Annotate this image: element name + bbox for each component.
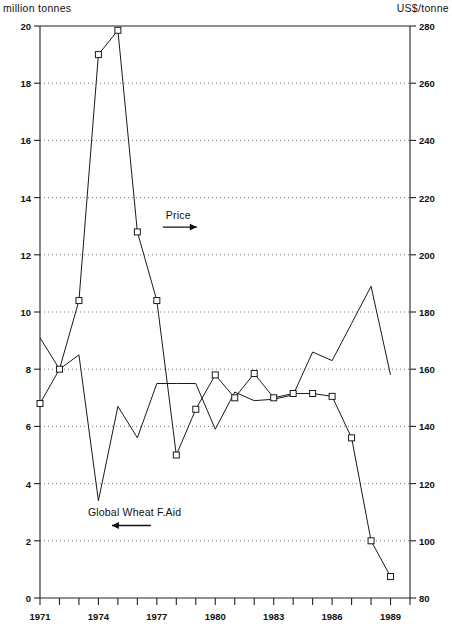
y-axis-tick-label: 20: [20, 21, 31, 32]
y-axis-tick-label: 2: [26, 535, 31, 546]
x-axis-tick-label: 1983: [263, 611, 284, 622]
price-annotation-arrow: [163, 224, 197, 231]
x-axis-tick-label: 1986: [322, 611, 343, 622]
food-aid-annotation-arrow: [112, 522, 151, 529]
x-axis-tick-label: 1974: [88, 611, 109, 622]
y2-axis-tick-label: 200: [419, 249, 435, 260]
price-data-point-marker: [173, 452, 179, 458]
y2-axis-tick-label: 260: [419, 78, 435, 89]
x-axis-tick-label: 1989: [380, 611, 401, 622]
data-series-layer: [37, 27, 394, 579]
y2-axis-tick-label: 240: [419, 135, 435, 146]
y-axis-tick-label: 4: [26, 478, 31, 489]
price-data-point-marker: [115, 27, 121, 33]
y-axis-tick-label: 14: [20, 192, 31, 203]
x-axis-tick-label: 1977: [146, 611, 167, 622]
y2-axis-tick-label: 160: [419, 364, 435, 375]
y-axis-tick-label: 10: [20, 307, 31, 318]
price-data-point-marker: [271, 395, 277, 401]
annotation-arrows: [112, 224, 197, 529]
price-data-point-marker: [310, 391, 316, 397]
y-axis-tick-label: 0: [26, 593, 31, 604]
y2-axis-tick-label: 100: [419, 535, 435, 546]
price-data-point-marker: [388, 574, 394, 580]
axis-ticks: [34, 26, 416, 605]
price-line: [40, 30, 391, 576]
x-axis-tick-label: 1971: [29, 611, 50, 622]
price-data-point-marker: [134, 229, 140, 235]
price-data-point-marker: [95, 52, 101, 58]
food-aid-series-label: Global Wheat F.Aid: [88, 506, 181, 518]
chart-container: million tonnes US$/tonne 024681012141618…: [0, 0, 452, 632]
chart-plot-area: [0, 0, 452, 632]
price-data-point-marker: [193, 406, 199, 412]
price-data-point-marker: [329, 393, 335, 399]
price-data-point-marker: [349, 435, 355, 441]
y2-axis-tick-label: 80: [419, 593, 430, 604]
y-axis-tick-label: 18: [20, 78, 31, 89]
price-data-point-marker: [212, 372, 218, 378]
y-axis-tick-label: 12: [20, 249, 31, 260]
y-axis-tick-label: 6: [26, 421, 31, 432]
y2-axis-tick-label: 120: [419, 478, 435, 489]
food-aid-line: [40, 286, 391, 501]
y2-axis-tick-label: 180: [419, 307, 435, 318]
y2-axis-tick-label: 220: [419, 192, 435, 203]
y-axis-tick-label: 8: [26, 364, 31, 375]
x-axis-tick-label: 1980: [205, 611, 226, 622]
price-data-point-marker: [368, 538, 374, 544]
gridlines: [40, 83, 410, 541]
y-axis-tick-label: 16: [20, 135, 31, 146]
y2-axis-tick-label: 280: [419, 21, 435, 32]
price-data-point-marker: [232, 395, 238, 401]
price-data-point-marker: [251, 370, 257, 376]
y2-axis-tick-label: 140: [419, 421, 435, 432]
price-data-point-marker: [76, 298, 82, 304]
price-data-point-marker: [154, 298, 160, 304]
price-series-label: Price: [166, 209, 191, 221]
price-data-point-marker: [37, 401, 43, 407]
price-data-point-marker: [56, 366, 62, 372]
price-data-point-marker: [290, 391, 296, 397]
